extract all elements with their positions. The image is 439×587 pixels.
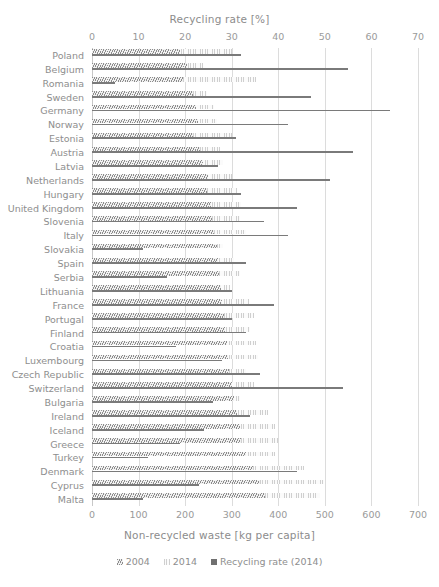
- category-label-poland: Poland: [52, 49, 84, 60]
- category-label-lithuania: Lithuania: [40, 285, 84, 296]
- category-label-united-kingdom: United Kingdom: [8, 202, 84, 213]
- recycling-rate-line-luxembourg: [92, 360, 222, 362]
- legend-item-2004[interactable]: 2004: [117, 556, 150, 567]
- recycling-rate-line-switzerland: [92, 387, 343, 389]
- legend-swatch-icon: [117, 559, 123, 565]
- chart-row: [92, 201, 418, 215]
- recycling-rate-line-czech-republic: [92, 373, 260, 375]
- category-label-belgium: Belgium: [45, 63, 84, 74]
- recycling-rate-line-latvia: [92, 165, 218, 167]
- top-axis-title: Recycling rate [%]: [0, 13, 439, 25]
- recycling-rate-line-germany: [92, 110, 390, 112]
- recycling-rate-line-belgium: [92, 68, 348, 70]
- legend-label: Recycling rate (2014): [220, 556, 322, 567]
- chart-row: [92, 423, 418, 437]
- bottom-tick-label-400: 400: [269, 509, 287, 520]
- category-label-turkey: Turkey: [53, 452, 84, 463]
- category-label-iceland: Iceland: [50, 424, 84, 435]
- chart-row: [92, 395, 418, 409]
- top-tick-label-0: 0: [89, 31, 95, 42]
- category-label-slovenia: Slovenia: [44, 216, 84, 227]
- chart-row: [92, 367, 418, 381]
- bottom-tick-label-700: 700: [409, 509, 427, 520]
- chart-row: [92, 409, 418, 423]
- category-label-finland: Finland: [50, 327, 84, 338]
- recycling-rate-line-turkey: [92, 457, 148, 459]
- category-label-romania: Romania: [42, 77, 84, 88]
- bottom-tick-label-300: 300: [223, 509, 241, 520]
- recycling-rate-line-iceland: [92, 429, 204, 431]
- chart-row: [92, 187, 418, 201]
- category-axis-labels: PolandBelgiumRomaniaSwedenGermanyNorwayE…: [0, 48, 88, 506]
- chart-row: [92, 159, 418, 173]
- gridline-700: [418, 48, 419, 506]
- recycling-rate-line-cyprus: [92, 484, 199, 486]
- chart-row: [92, 131, 418, 145]
- category-label-slovakia: Slovakia: [44, 244, 84, 255]
- category-label-switzerland: Switzerland: [29, 383, 84, 394]
- chart-row: [92, 339, 418, 353]
- top-tick-label-60: 60: [365, 31, 377, 42]
- chart-row: [92, 492, 418, 506]
- category-label-greece: Greece: [50, 438, 84, 449]
- legend-label: 2014: [173, 556, 197, 567]
- top-tick-label-50: 50: [319, 31, 331, 42]
- recycling-rate-line-france: [92, 304, 274, 306]
- category-label-norway: Norway: [48, 119, 84, 130]
- chart-row: [92, 298, 418, 312]
- chart-row: [92, 117, 418, 131]
- recycling-rate-line-ireland: [92, 415, 250, 417]
- recycling-rate-line-italy: [92, 235, 288, 237]
- top-tick-label-30: 30: [226, 31, 238, 42]
- legend-item-recycling-rate-2014[interactable]: Recycling rate (2014): [211, 556, 322, 567]
- recycling-rate-line-denmark: [92, 471, 297, 473]
- recycling-rate-line-bulgaria: [92, 401, 213, 403]
- plot-area: [92, 48, 418, 506]
- recycling-rate-line-croatia: [92, 346, 176, 348]
- category-label-luxembourg: Luxembourg: [25, 355, 84, 366]
- chart-row: [92, 450, 418, 464]
- recycling-rate-line-finland: [92, 332, 246, 334]
- chart-row: [92, 90, 418, 104]
- category-label-france: France: [52, 299, 84, 310]
- recycling-rate-line-slovakia: [92, 248, 143, 250]
- category-label-germany: Germany: [40, 105, 84, 116]
- chart-row: [92, 464, 418, 478]
- top-tick-label-70: 70: [412, 31, 424, 42]
- top-tick-label-40: 40: [272, 31, 284, 42]
- chart-row: [92, 270, 418, 284]
- category-label-italy: Italy: [63, 230, 84, 241]
- recycling-rate-line-poland: [92, 54, 241, 56]
- category-label-estonia: Estonia: [49, 133, 84, 144]
- category-label-czech-republic: Czech Republic: [12, 369, 84, 380]
- top-tick-label-20: 20: [179, 31, 191, 42]
- chart-row: [92, 437, 418, 451]
- chart-row: [92, 312, 418, 326]
- category-label-latvia: Latvia: [55, 160, 84, 171]
- category-label-bulgaria: Bulgaria: [45, 396, 84, 407]
- chart-row: [92, 478, 418, 492]
- recycling-rate-line-austria: [92, 151, 353, 153]
- category-label-austria: Austria: [50, 147, 84, 158]
- chart-row: [92, 76, 418, 90]
- category-label-malta: Malta: [58, 494, 84, 505]
- legend-label: 2004: [126, 556, 150, 567]
- bottom-tick-label-500: 500: [316, 509, 334, 520]
- recycling-rate-line-lithuania: [92, 290, 232, 292]
- category-label-croatia: Croatia: [50, 341, 84, 352]
- legend-item-2014[interactable]: 2014: [164, 556, 197, 567]
- category-label-ireland: Ireland: [51, 410, 84, 421]
- category-label-sweden: Sweden: [46, 91, 84, 102]
- recycling-rate-line-united-kingdom: [92, 207, 297, 209]
- recycling-rate-line-sweden: [92, 96, 311, 98]
- chart-row: [92, 381, 418, 395]
- recycling-rate-line-norway: [92, 124, 288, 126]
- category-label-denmark: Denmark: [40, 466, 84, 477]
- category-label-netherlands: Netherlands: [26, 174, 84, 185]
- category-label-serbia: Serbia: [54, 272, 84, 283]
- top-axis-ticks: 010203040506070: [0, 31, 439, 44]
- recycling-rate-line-romania: [92, 82, 115, 84]
- chart-row: [92, 228, 418, 242]
- chart-container: Recycling rate [%] 010203040506070 Polan…: [0, 0, 439, 587]
- category-label-hungary: Hungary: [43, 188, 84, 199]
